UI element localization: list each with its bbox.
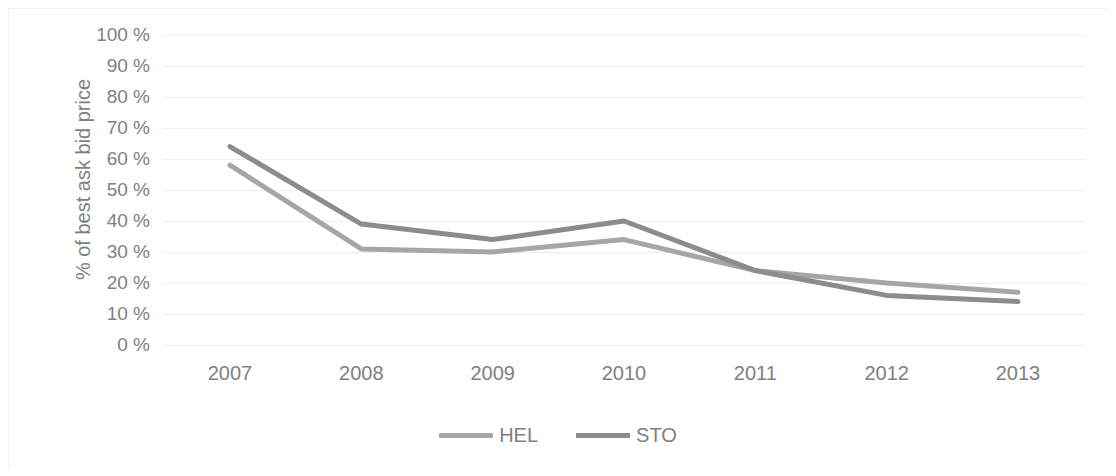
legend-item-hel[interactable]: HEL: [439, 424, 538, 447]
y-axis-tick-labels: 100 %90 %80 %70 %60 %50 %40 %30 %20 %10 …: [60, 0, 150, 476]
y-axis-tick-label: 70 %: [60, 117, 150, 139]
y-axis-tick-label: 30 %: [60, 241, 150, 263]
x-axis-tick-label: 2008: [301, 362, 421, 385]
y-axis-tick-label: 50 %: [60, 179, 150, 201]
y-axis-tick-label: 20 %: [60, 272, 150, 294]
legend-label: STO: [636, 424, 677, 447]
y-axis-tick-label: 40 %: [60, 210, 150, 232]
y-axis-tick-label: 90 %: [60, 55, 150, 77]
gridline: [163, 345, 1085, 346]
y-axis-tick-label: 10 %: [60, 303, 150, 325]
x-axis-tick-label: 2009: [433, 362, 553, 385]
series-lines: [163, 35, 1085, 345]
y-axis-tick-label: 0 %: [60, 334, 150, 356]
y-axis-tick-label: 80 %: [60, 86, 150, 108]
legend-label: HEL: [499, 424, 538, 447]
legend-swatch-icon: [576, 433, 630, 438]
x-axis-tick-label: 2013: [958, 362, 1078, 385]
x-axis-tick-label: 2012: [827, 362, 947, 385]
x-axis-tick-label: 2011: [695, 362, 815, 385]
series-line-sto: [230, 147, 1018, 302]
legend-swatch-icon: [439, 433, 493, 438]
y-axis-tick-label: 100 %: [60, 24, 150, 46]
line-chart: % of best ask bid price 100 %90 %80 %70 …: [0, 0, 1116, 476]
x-axis-tick-label: 2007: [170, 362, 290, 385]
x-axis-tick-label: 2010: [564, 362, 684, 385]
legend-item-sto[interactable]: STO: [576, 424, 677, 447]
y-axis-tick-label: 60 %: [60, 148, 150, 170]
x-axis-tick-labels: 2007200820092010201120122013: [163, 362, 1085, 396]
series-line-hel: [230, 165, 1018, 292]
chart-legend: HELSTO: [0, 424, 1116, 447]
plot-area: [163, 35, 1085, 345]
